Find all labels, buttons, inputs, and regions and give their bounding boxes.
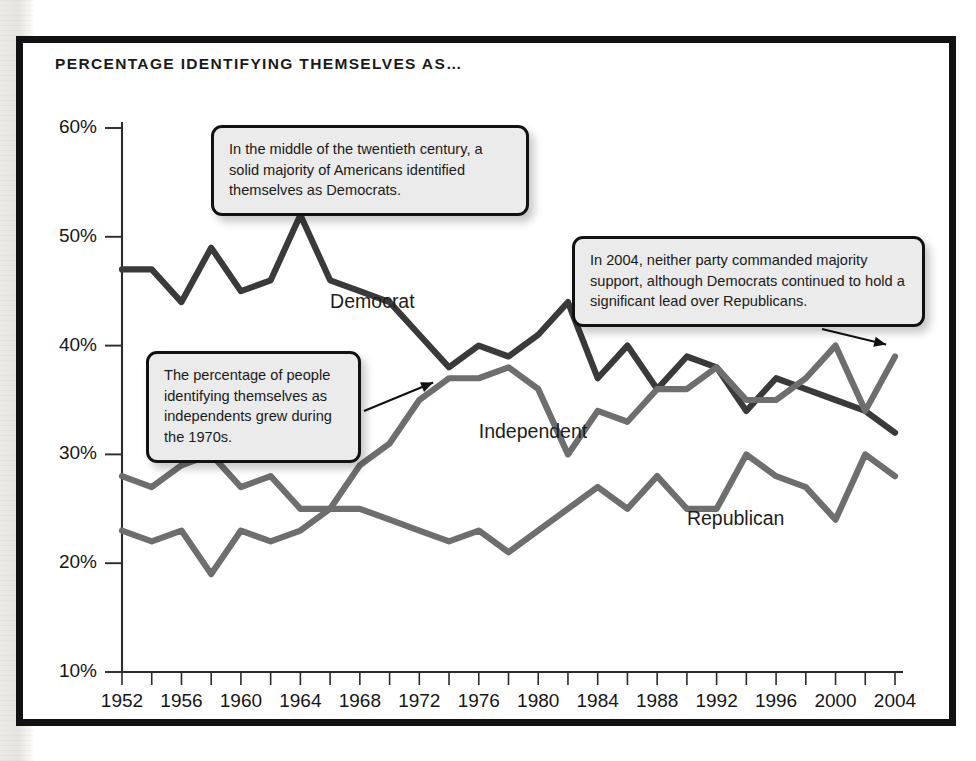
y-tick-label: 20% (59, 551, 97, 572)
y-tick-label: 10% (59, 660, 97, 681)
x-tick-label: 1996 (755, 690, 797, 711)
x-tick-label: 1980 (517, 690, 559, 711)
x-tick-label: 1984 (577, 690, 620, 711)
x-tick-label: 2000 (814, 690, 856, 711)
y-axis-labels: 10%20%30%40%50%60% (59, 116, 97, 681)
series-label-democrat: Democrat (330, 290, 415, 312)
annotation-callout-2004-no-majority: In 2004, neither party commanded majorit… (572, 236, 925, 327)
y-tick-label: 50% (59, 225, 97, 246)
x-tick-label: 1976 (458, 690, 500, 711)
x-axis-labels: 1952195619601964196819721976198019841988… (101, 690, 917, 711)
x-tick-label: 1960 (220, 690, 262, 711)
series-label-independent: Independent (479, 420, 588, 442)
y-tick-label: 40% (59, 334, 97, 355)
x-tick-label: 1988 (636, 690, 678, 711)
annotation-callout-independent-growth: The percentage of people identifying the… (146, 351, 361, 463)
x-tick-label: 2004 (874, 690, 917, 711)
figure-page: PERCENTAGE IDENTIFYING THEMSELVES AS… 10… (0, 0, 976, 761)
x-tick-label: 1952 (101, 690, 143, 711)
y-tick-label: 30% (59, 442, 97, 463)
x-tick-label: 1992 (695, 690, 737, 711)
series-label-republican: Republican (687, 507, 785, 529)
callout-leader-2004-no-majority-arrowhead (873, 337, 886, 347)
y-tick-label: 60% (59, 116, 97, 137)
x-tick-label: 1964 (279, 690, 322, 711)
annotation-callout-democrat-majority: In the middle of the twentieth century, … (211, 125, 529, 216)
x-tick-label: 1968 (339, 690, 381, 711)
x-tick-label: 1956 (160, 690, 202, 711)
x-tick-label: 1972 (398, 690, 440, 711)
